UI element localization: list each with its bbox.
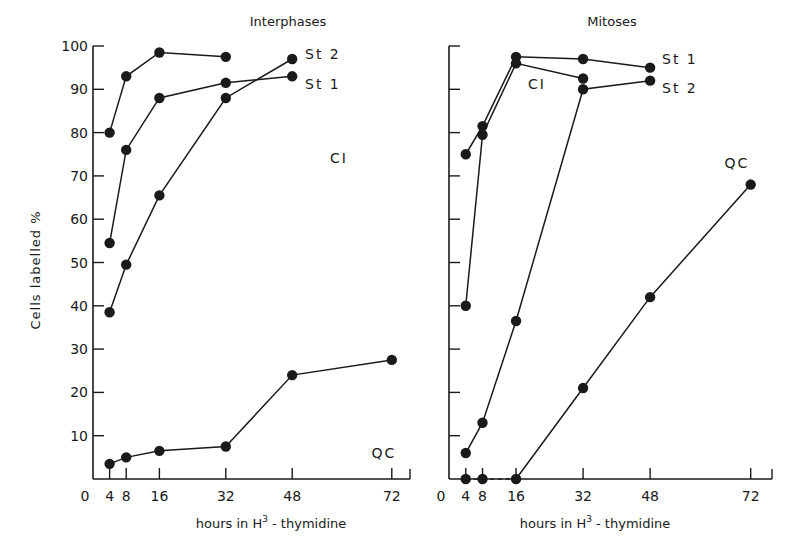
data-point: [578, 383, 588, 393]
series-qc: QC: [104, 355, 397, 469]
panel-interphases: Interphases10203040506070809010004816324…: [61, 14, 410, 531]
data-point: [154, 93, 164, 103]
data-point: [121, 71, 131, 81]
data-point: [104, 307, 114, 317]
x-tick-label: 48: [641, 488, 659, 504]
x-tick-label: 4: [105, 488, 114, 504]
data-point: [104, 238, 114, 248]
panel-title: Interphases: [250, 14, 327, 29]
data-point: [477, 474, 487, 484]
data-point: [645, 292, 655, 302]
data-point: [121, 145, 131, 155]
x-tick-label: 0: [437, 488, 446, 504]
series-ci: CI: [461, 58, 589, 311]
y-tick-label: 40: [70, 298, 88, 314]
data-point: [645, 62, 655, 72]
y-axis-label: Cells labelled %: [28, 211, 43, 330]
x-axis-label: hours in H3 - thymidine: [520, 514, 671, 531]
y-tick-label: 20: [70, 384, 88, 400]
x-tick-label: 16: [507, 488, 525, 504]
data-point: [511, 58, 521, 68]
data-point: [461, 474, 471, 484]
data-point: [477, 130, 487, 140]
series-label: QC: [725, 155, 750, 171]
panel-mitoses: Mitoses04816324872hours in H3 - thymidin…: [437, 14, 772, 531]
x-tick-label: 32: [217, 488, 235, 504]
x-tick-label: 72: [742, 488, 760, 504]
series-label: CI: [330, 150, 348, 166]
y-tick-label: 90: [70, 81, 88, 97]
data-point: [221, 441, 231, 451]
data-point: [645, 75, 655, 85]
series-st2: St 2: [461, 75, 698, 458]
data-point: [154, 446, 164, 456]
data-point: [287, 71, 297, 81]
data-point: [221, 52, 231, 62]
series-ci: CI: [104, 47, 348, 166]
series-label: St 1: [662, 51, 698, 67]
x-tick-label: 4: [461, 488, 470, 504]
series-label: St 1: [305, 76, 341, 92]
x-tick-label: 72: [383, 488, 401, 504]
data-point: [461, 149, 471, 159]
y-tick-label: 10: [70, 428, 88, 444]
x-tick-label: 8: [478, 488, 487, 504]
data-point: [121, 452, 131, 462]
data-point: [387, 355, 397, 365]
series-label: St 2: [662, 80, 698, 96]
data-point: [578, 84, 588, 94]
data-point: [104, 127, 114, 137]
data-point: [221, 93, 231, 103]
x-tick-label: 8: [122, 488, 131, 504]
x-tick-label: 48: [283, 488, 301, 504]
series-label: St 2: [305, 46, 341, 62]
y-tick-label: 60: [70, 211, 88, 227]
x-tick-label: 16: [150, 488, 168, 504]
data-point: [461, 448, 471, 458]
panel-title: Mitoses: [587, 14, 637, 29]
data-point: [578, 73, 588, 83]
data-point: [578, 54, 588, 64]
data-point: [154, 47, 164, 57]
data-point: [154, 190, 164, 200]
x-tick-label: 0: [81, 488, 90, 504]
series-label: CI: [528, 76, 546, 92]
data-point: [745, 179, 755, 189]
x-tick-label: 32: [574, 488, 592, 504]
series-qc: QC: [461, 155, 756, 484]
y-tick-label: 50: [70, 255, 88, 271]
y-tick-label: 30: [70, 341, 88, 357]
data-point: [287, 370, 297, 380]
data-point: [511, 474, 521, 484]
y-tick-label: 100: [61, 38, 88, 54]
data-point: [221, 78, 231, 88]
x-axis-label: hours in H3 - thymidine: [196, 514, 347, 531]
data-point: [511, 316, 521, 326]
data-point: [477, 418, 487, 428]
data-point: [287, 54, 297, 64]
data-point: [461, 301, 471, 311]
data-point: [104, 459, 114, 469]
figure: Interphases10203040506070809010004816324…: [0, 0, 793, 552]
y-tick-label: 70: [70, 168, 88, 184]
y-tick-label: 80: [70, 125, 88, 141]
series-label: QC: [372, 445, 397, 461]
data-point: [121, 259, 131, 269]
